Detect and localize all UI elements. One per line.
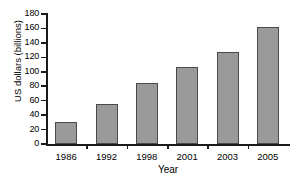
y-tick-label: 180 bbox=[25, 9, 39, 18]
x-axis-title: Year bbox=[46, 164, 290, 175]
y-tick-label: 0 bbox=[34, 139, 39, 148]
x-tick-mark bbox=[248, 145, 250, 149]
y-tick-label: 100 bbox=[25, 67, 39, 76]
bar bbox=[55, 122, 77, 144]
x-tick-mark bbox=[86, 145, 88, 149]
bar bbox=[96, 104, 118, 144]
y-axis-title: US dollars (billions) bbox=[13, 0, 23, 131]
x-tick-label: 1992 bbox=[96, 152, 117, 162]
bar bbox=[217, 52, 239, 144]
y-tick-label: 160 bbox=[25, 23, 39, 32]
x-tick-label: 2001 bbox=[177, 152, 198, 162]
x-tick-label: 2003 bbox=[217, 152, 238, 162]
bar bbox=[136, 83, 158, 144]
y-tick-label: 120 bbox=[25, 52, 39, 61]
bar bbox=[176, 67, 198, 144]
plot-area bbox=[46, 14, 288, 144]
x-tick-label: 1998 bbox=[136, 152, 157, 162]
x-tick-label: 2005 bbox=[257, 152, 278, 162]
y-tick-label: 60 bbox=[29, 96, 39, 105]
bar-chart: 020406080100120140160180 198619921998200… bbox=[0, 0, 296, 180]
x-tick-label: 1986 bbox=[56, 152, 77, 162]
bar bbox=[257, 27, 279, 144]
y-tick-label: 140 bbox=[25, 38, 39, 47]
x-tick-mark bbox=[207, 145, 209, 149]
x-tick-mark bbox=[167, 145, 169, 149]
y-tick-label: 80 bbox=[29, 81, 39, 90]
y-tick-label: 20 bbox=[29, 125, 39, 134]
x-tick-mark bbox=[127, 145, 129, 149]
y-tick-label: 40 bbox=[29, 110, 39, 119]
